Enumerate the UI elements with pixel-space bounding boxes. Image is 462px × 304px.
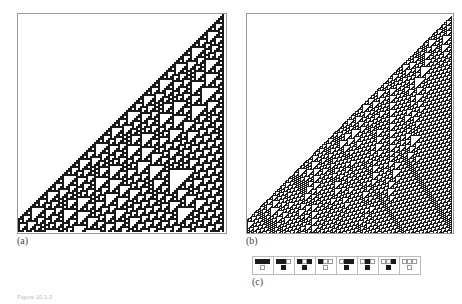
automaton-canvas-a <box>18 14 226 233</box>
rule-output-icon <box>386 265 391 270</box>
rule-cell-icon <box>412 259 417 264</box>
panel-b <box>246 13 454 234</box>
panel-c-label: (c) <box>252 276 263 287</box>
rule-icons <box>252 256 420 275</box>
rule-output-icon <box>323 265 328 270</box>
rule-cell-icon <box>349 259 354 264</box>
rule-cell-icon <box>328 259 333 264</box>
rule-case-0 <box>252 256 274 275</box>
rule-case-2 <box>294 256 316 275</box>
rule-cell-icon <box>307 259 312 264</box>
rule-cell-icon <box>391 259 396 264</box>
automaton-canvas-b <box>247 14 453 233</box>
rule-output-icon <box>365 265 370 270</box>
rule-cell-icon <box>370 259 375 264</box>
figure-caption: Figure 10.1.3 <box>17 294 52 300</box>
rule-case-3 <box>315 256 337 275</box>
rule-output-icon <box>344 265 349 270</box>
rule-cell-icon <box>286 259 291 264</box>
rule-output-icon <box>407 265 412 270</box>
rule-case-5 <box>357 256 379 275</box>
rule-output-icon <box>281 265 286 270</box>
rule-case-7 <box>399 256 421 275</box>
rule-case-6 <box>378 256 400 275</box>
rule-output-icon <box>302 265 307 270</box>
rule-case-1 <box>273 256 295 275</box>
rule-output-icon <box>260 265 265 270</box>
rule-case-4 <box>336 256 358 275</box>
rule-cell-icon <box>265 259 270 264</box>
panel-a <box>17 13 227 234</box>
panel-a-label: (a) <box>17 235 28 246</box>
panel-b-label: (b) <box>246 235 258 246</box>
